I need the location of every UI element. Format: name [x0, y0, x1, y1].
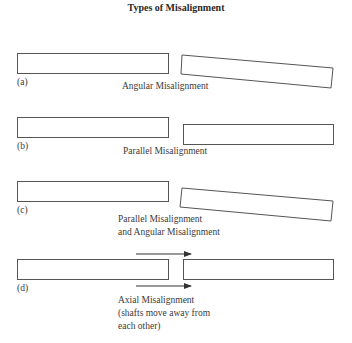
- shaft-c-left: [18, 182, 169, 202]
- panel-b-letter: (b): [17, 140, 28, 153]
- panel-d-caption-line1: Axial Misalignment: [118, 294, 194, 307]
- shaft-b-left: [18, 118, 169, 138]
- shaft-d-left: [18, 260, 169, 280]
- panel-a-letter: (a): [17, 76, 28, 89]
- panel-d-caption-line2: (shafts move away from: [118, 307, 210, 320]
- panel-b-caption: Parallel Misalignment: [123, 145, 207, 158]
- shaft-c-right: [180, 188, 333, 221]
- panel-c-letter: (c): [17, 204, 28, 217]
- panel-d-caption-line3: each other): [118, 320, 160, 333]
- panel-c-caption-line2: and Angular Misalignment: [118, 226, 220, 239]
- panel-d-letter: (d): [17, 282, 28, 295]
- shaft-a-left: [18, 54, 169, 74]
- shaft-b-right: [184, 125, 334, 145]
- panel-a-caption: Angular Misalignment: [122, 80, 208, 93]
- shaft-d-right: [184, 260, 334, 280]
- panel-c-caption-line1: Parallel Misalignment: [118, 213, 202, 226]
- misalignment-diagram: [0, 0, 352, 343]
